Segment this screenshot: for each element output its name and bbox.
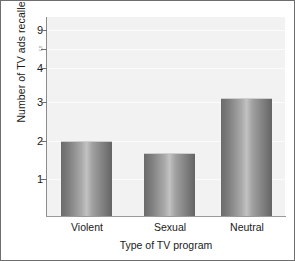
bar-violent [61, 141, 112, 216]
bar-neutral [221, 98, 272, 216]
x-tick-label-sexual: Sexual [154, 221, 186, 233]
bar-chart-figure: Number of TV ads recalled 1 2 3 4 5 9 Vi… [0, 0, 295, 261]
gridline-4 [47, 68, 285, 69]
x-axis-title: Type of TV program [47, 239, 285, 251]
plot-area [47, 17, 285, 216]
x-axis-line [46, 216, 286, 217]
bar-sexual [144, 153, 195, 216]
gridline-5 [47, 49, 285, 50]
x-tick-label-neutral: Neutral [230, 221, 264, 233]
x-tick-label-violent: Violent [71, 221, 103, 233]
gridline-9 [47, 30, 285, 31]
y-axis-tick-labels: 1 2 3 4 5 9 [25, 1, 43, 261]
